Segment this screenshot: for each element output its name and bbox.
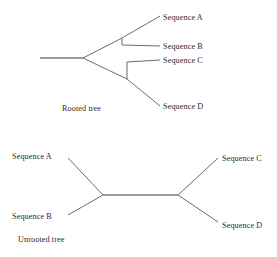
rooted-branch-tip-d bbox=[127, 79, 160, 106]
unrooted-branch-tip-b bbox=[68, 195, 103, 215]
rooted-branch-to-clade-cd bbox=[83, 58, 127, 79]
unrooted-branch-tip-c bbox=[178, 158, 218, 195]
unrooted-taxon-label-c: Sequence C bbox=[222, 155, 262, 163]
phylogenetic-tree-figure: Sequence A Sequence B Sequence C Sequenc… bbox=[0, 0, 277, 257]
rooted-branch-to-clade-ab bbox=[83, 38, 122, 58]
rooted-branch-tip-c bbox=[127, 60, 160, 62]
unrooted-taxon-label-a: Sequence A bbox=[12, 153, 52, 161]
rooted-branch-tip-a bbox=[122, 16, 160, 38]
unrooted-tree-group bbox=[68, 158, 218, 222]
unrooted-taxon-label-b: Sequence B bbox=[12, 213, 52, 221]
rooted-taxon-label-c: Sequence C bbox=[163, 57, 203, 65]
rooted-tree-group bbox=[40, 16, 160, 106]
unrooted-taxon-label-d: Sequence D bbox=[222, 222, 262, 230]
unrooted-branch-tip-d bbox=[178, 195, 218, 222]
rooted-tree-caption: Rooted tree bbox=[62, 105, 101, 113]
unrooted-tree-caption: Unrooted tree bbox=[18, 236, 65, 244]
unrooted-branch-tip-a bbox=[68, 158, 103, 195]
rooted-taxon-label-b: Sequence B bbox=[163, 43, 203, 51]
rooted-taxon-label-a: Sequence A bbox=[163, 14, 203, 22]
rooted-taxon-label-d: Sequence D bbox=[163, 103, 203, 111]
rooted-branch-tip-b bbox=[122, 45, 160, 46]
